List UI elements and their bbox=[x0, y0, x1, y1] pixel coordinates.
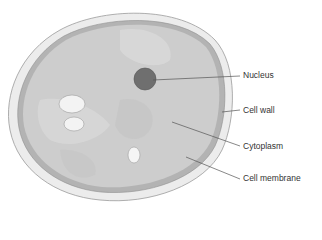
vacuole bbox=[59, 95, 85, 113]
vacuole bbox=[128, 147, 140, 163]
nucleus-shape bbox=[134, 68, 156, 90]
label-nucleus: Nucleus bbox=[243, 70, 274, 80]
vacuole bbox=[64, 117, 84, 131]
label-cell-wall: Cell wall bbox=[243, 105, 275, 115]
label-cytoplasm: Cytoplasm bbox=[243, 141, 283, 151]
label-cell-membrane: Cell membrane bbox=[243, 173, 301, 183]
